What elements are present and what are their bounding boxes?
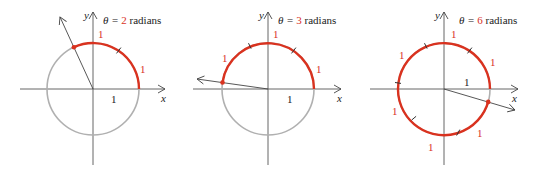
y-axis-label: y: [434, 9, 440, 21]
arc-segment-label: 1: [399, 49, 405, 61]
terminal-point: [72, 45, 77, 50]
unit-radius-label: 1: [111, 93, 117, 105]
terminal-point: [220, 80, 225, 85]
terminal-point: [486, 100, 491, 105]
arc-segment-label: 1: [490, 56, 496, 68]
y-axis-label: y: [258, 9, 264, 21]
y-axis-label: y: [83, 9, 89, 21]
unit-circle-figure: y x 1 1 1 θ = 2 radians y x 1 1 1 1 θ = …: [0, 0, 542, 175]
arc-tick-mark: [412, 116, 417, 120]
panel-theta-2: y x 1 1 1 θ = 2 radians: [20, 9, 166, 165]
panel-title: θ = 2 radians: [103, 14, 161, 26]
arc-segment-label: 1: [222, 52, 228, 64]
arc-segment-label: 1: [392, 105, 398, 117]
terminal-ray: [197, 79, 268, 89]
x-axis-label: x: [511, 92, 517, 104]
arc-tick-mark: [395, 83, 401, 84]
arc-segment-label: 1: [451, 28, 457, 40]
unit-radius-label: 1: [287, 93, 293, 105]
arc-segment-label: 1: [428, 141, 434, 153]
arc-segment-label: 1: [477, 127, 483, 139]
panel-theta-3: y x 1 1 1 1 θ = 3 radians: [193, 9, 342, 165]
panel-title: θ = 6 radians: [459, 14, 517, 26]
terminal-ray: [444, 89, 515, 110]
x-axis-label: x: [336, 92, 342, 104]
panel-title: θ = 3 radians: [278, 14, 336, 26]
arc-length-2: [74, 43, 139, 89]
x-axis-label: x: [160, 92, 166, 104]
arc-segment-label: 1: [98, 28, 104, 40]
unit-radius-label: 1: [464, 76, 470, 88]
arc-segment-label: 1: [316, 63, 322, 75]
arc-segment-label: 1: [140, 63, 146, 75]
panel-theta-6: y x 1 1 1 1 1 1 1 θ = 6 radians: [370, 9, 518, 165]
arc-segment-label: 1: [273, 28, 279, 40]
